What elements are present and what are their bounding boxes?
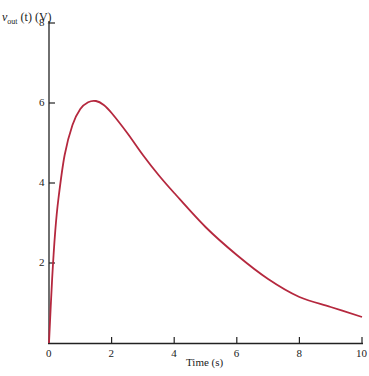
x-ticks bbox=[112, 337, 362, 343]
y-tick-label: 6 bbox=[39, 97, 45, 108]
y-label-sub: out bbox=[7, 17, 17, 26]
x-tick-label: 6 bbox=[234, 348, 240, 359]
x-tick-label: 8 bbox=[296, 348, 302, 359]
y-ticks bbox=[49, 23, 55, 263]
axes bbox=[48, 21, 363, 344]
y-tick-label: 2 bbox=[39, 257, 45, 268]
vout-curve bbox=[49, 101, 362, 343]
x-tick-label: 10 bbox=[356, 348, 367, 359]
x-tick-label: 4 bbox=[171, 348, 177, 359]
x-tick-label: 2 bbox=[109, 348, 115, 359]
y-label-arg: (t) bbox=[21, 10, 32, 24]
chart-plot-area bbox=[0, 0, 369, 376]
y-tick-label: 8 bbox=[39, 17, 45, 28]
y-tick-label: 4 bbox=[39, 177, 45, 188]
x-tick-label: 0 bbox=[46, 348, 52, 359]
x-axis-title: Time (s) bbox=[186, 356, 223, 368]
